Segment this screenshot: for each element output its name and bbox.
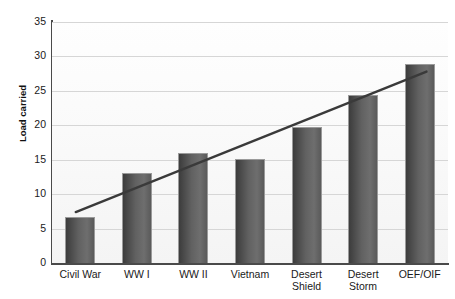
bar [235,159,265,263]
y-axis-tick-label: 35 [16,16,46,27]
x-axis-tick-label: WW II [165,268,222,280]
bar [292,127,322,263]
x-axis-tick-label: OEF/OIF [391,268,448,280]
bar [122,173,152,263]
bar [348,95,378,263]
x-axis-tick-label: Desert Storm [335,268,392,292]
bar [178,153,208,263]
y-axis-tick-labels: 05101520253035 [16,0,46,299]
y-axis-tick-label: 5 [16,223,46,234]
x-axis-tick-labels: Civil WarWW IWW IIVietnamDesert ShieldDe… [52,268,448,299]
gridline [52,22,448,23]
bar [65,217,95,263]
y-axis-tick-label: 10 [16,188,46,199]
bar [405,64,435,263]
y-axis-tick-label: 15 [16,154,46,165]
x-axis-tick-label: Civil War [52,268,109,280]
gridline [52,91,448,92]
x-axis-line [51,263,449,265]
y-axis-tick-label: 0 [16,257,46,268]
plot-area [52,22,448,263]
y-axis-tick-label: 20 [16,119,46,130]
gridline [52,56,448,57]
y-axis-tick-label: 30 [16,50,46,61]
x-axis-tick-label: WW I [109,268,166,280]
bar-chart: Load carried 05101520253035 Civil WarWW … [0,0,455,299]
x-axis-tick-label: Desert Shield [278,268,335,292]
x-axis-tick-label: Vietnam [222,268,279,280]
gridline [52,125,448,126]
y-axis-tick-label: 25 [16,85,46,96]
